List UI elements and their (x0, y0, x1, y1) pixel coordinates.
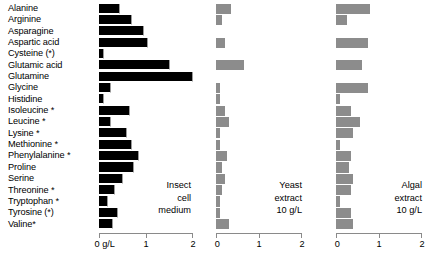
category-label: Lysine * (8, 128, 96, 139)
bar-row (99, 219, 193, 230)
category-label: Methionine * (8, 139, 96, 150)
bar (336, 94, 340, 104)
bar (336, 151, 351, 161)
bar (216, 83, 220, 93)
bar (216, 60, 244, 70)
bar (99, 219, 113, 229)
category-label: Valine* (8, 219, 96, 230)
bar (336, 38, 368, 48)
bar (99, 151, 139, 161)
bar (99, 49, 104, 59)
category-label: Isoleucine * (8, 105, 96, 116)
bar (99, 106, 130, 116)
bar (99, 117, 111, 127)
bar (99, 4, 120, 14)
axis-tick-label: 1 (376, 239, 381, 250)
bar-row (216, 105, 302, 116)
category-label: Alanine (8, 3, 96, 14)
bar-row (216, 82, 302, 93)
category-label: Aspartic acid (8, 37, 96, 48)
axis-tick-label: 0 (215, 239, 220, 250)
axis-tick (216, 233, 217, 238)
bar (216, 208, 220, 218)
bar (216, 196, 220, 206)
bar-row (336, 94, 422, 105)
category-label: Cysteine (*) (8, 48, 96, 59)
bar-row (336, 71, 422, 82)
panel-caption-line: medium (158, 204, 191, 217)
bar-row (216, 71, 302, 82)
bar-row (216, 94, 302, 105)
bar (216, 94, 220, 104)
axis-tick-label: 2 (190, 239, 195, 250)
panel-caption: Yeastextract10 g/L (274, 179, 302, 217)
axis-tick-label: 2 (419, 239, 424, 250)
bar (99, 174, 123, 184)
bar (336, 83, 368, 93)
bar-row (216, 3, 302, 14)
bar-row (336, 219, 422, 230)
category-label: Histidine (8, 94, 96, 105)
bar (336, 60, 362, 70)
bar-row (216, 116, 302, 127)
bar-row (336, 162, 422, 173)
bar-row (99, 128, 193, 139)
axis-tick-label: 0 (335, 239, 340, 250)
bar (336, 4, 370, 14)
bar (99, 94, 104, 104)
bar (216, 38, 225, 48)
bar-row (216, 128, 302, 139)
axis-tick (336, 233, 337, 238)
panel-caption-line: cell (158, 192, 191, 205)
bar-row (336, 3, 422, 14)
bar (216, 4, 231, 14)
bar (99, 15, 132, 25)
bar (216, 15, 222, 25)
bar (99, 185, 115, 195)
axis-tick (301, 233, 302, 238)
bar (336, 162, 349, 172)
bar-row (99, 37, 193, 48)
bar-row (336, 150, 422, 161)
axis-tick (379, 233, 380, 238)
category-label: Tryptophan * (8, 196, 96, 207)
panel-caption: Algalextract10 g/L (394, 179, 422, 217)
bar (216, 117, 229, 127)
bar (99, 72, 193, 82)
bar (216, 185, 222, 195)
bar (216, 219, 229, 229)
bar-row (99, 71, 193, 82)
x-axis: 012 (216, 233, 302, 257)
bar (216, 162, 222, 172)
bar-row (216, 162, 302, 173)
panel-insect-cell-medium: 0 g/L12Insectcellmedium (99, 3, 193, 230)
bar-row (216, 60, 302, 71)
bar-row (99, 150, 193, 161)
axis-tick (99, 233, 100, 238)
x-axis: 012 (336, 233, 422, 257)
bar (336, 140, 340, 150)
bar (99, 140, 132, 150)
x-axis: 0 g/L12 (99, 233, 193, 257)
axis-tick (192, 233, 193, 238)
axis-tick (259, 233, 260, 238)
bar-row (216, 26, 302, 37)
category-label: Phenylalanine * (8, 150, 96, 161)
axis-tick-label: 0 g/L (95, 239, 115, 250)
panel-caption-line: Algal (394, 179, 422, 192)
bar-row (99, 105, 193, 116)
bar (216, 128, 220, 138)
axis-tick (421, 233, 422, 238)
axis-tick-label: 1 (256, 239, 261, 250)
amino-acid-composition-chart: AlanineArginineAsparagineAspartic acidCy… (0, 0, 426, 257)
category-label: Tyrosine (*) (8, 207, 96, 218)
bar (336, 174, 353, 184)
bar (99, 26, 144, 36)
panel-caption: Insectcellmedium (158, 179, 191, 217)
category-label: Arginine (8, 14, 96, 25)
bar (99, 60, 170, 70)
bar (336, 106, 351, 116)
bar-row (216, 219, 302, 230)
bar (99, 196, 108, 206)
bar-row (216, 139, 302, 150)
